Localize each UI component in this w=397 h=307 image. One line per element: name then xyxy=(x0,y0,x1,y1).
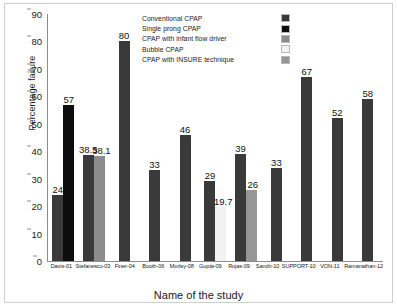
bar-value-label: 26 xyxy=(247,179,258,189)
chart-figure: Percentage failure Name of the study 90 … xyxy=(0,0,397,307)
x-tick-support-10: SUPPORT-10 xyxy=(282,263,316,269)
y-tick-70: 70 xyxy=(31,63,48,74)
bar-ramanathan-12-conventional-cpap[interactable]: 58 xyxy=(362,99,373,261)
bar-value-label: 80 xyxy=(119,31,130,41)
legend-item-infant-flow-driver[interactable]: CPAP with infant flow driver xyxy=(142,34,290,44)
bar-von-11-conventional-cpap[interactable]: 52 xyxy=(332,118,343,261)
y-tick-40: 40 xyxy=(31,146,48,157)
y-tick-mark xyxy=(27,173,31,174)
bar-rojas-09-conventional-cpap[interactable]: 39 xyxy=(235,154,246,261)
legend-label: CPAP with infant flow driver xyxy=(142,35,275,42)
bar-value-label: 57 xyxy=(63,94,74,104)
y-tick-mark xyxy=(27,118,31,119)
bar-value-label: 58 xyxy=(362,89,373,99)
y-tick-20: 20 xyxy=(31,201,48,212)
y-tick-mark xyxy=(27,201,31,202)
bar-group-support-10: 67 xyxy=(292,14,322,261)
y-tick-mark xyxy=(27,91,31,92)
x-tick-von-11: VON-11 xyxy=(316,263,345,269)
y-tick-mark xyxy=(27,36,31,37)
y-tick-mark xyxy=(33,256,37,257)
x-tick-rojas-09: Rojas-09 xyxy=(225,263,254,269)
bar-value-label: 29 xyxy=(205,171,216,181)
y-tick-mark xyxy=(27,228,31,229)
bar-value-label: 46 xyxy=(180,124,191,134)
y-tick-10: 10 xyxy=(31,228,48,239)
legend-swatch-bubble-cpap xyxy=(281,45,290,53)
legend-label: Single prong CPAP xyxy=(142,25,275,32)
bar-group-stefanescu-03: 38.5 38.1 xyxy=(78,14,108,261)
legend-label: Conventional CPAP xyxy=(142,15,275,22)
bar-stefanescu-03-infant-flow-driver[interactable]: 38.1 xyxy=(94,156,105,261)
legend-swatch-insure-technique xyxy=(281,56,290,64)
bar-group-finer-04: 80 xyxy=(109,14,139,261)
x-tick-booth-06: Booth-06 xyxy=(139,263,168,269)
x-tick-davis-01: Davis-01 xyxy=(47,263,76,269)
y-tick-mark xyxy=(27,63,31,64)
bar-value-label: 33 xyxy=(271,158,282,168)
bar-value-label: 38.1 xyxy=(92,146,111,156)
bar-value-label: 52 xyxy=(332,108,343,118)
legend-label: CPAP with INSURE technique xyxy=(142,56,275,63)
legend-item-insure-technique[interactable]: CPAP with INSURE technique xyxy=(142,55,290,65)
bar-davis-01-single-prong-cpap[interactable]: 57 xyxy=(63,105,74,261)
legend-item-single-prong-cpap[interactable]: Single prong CPAP xyxy=(142,23,290,33)
bar-value-label: 67 xyxy=(302,67,313,77)
bar-morley-08-conventional-cpap[interactable]: 46 xyxy=(180,135,191,261)
x-tick-finer-04: Finer-04 xyxy=(110,263,139,269)
legend-swatch-single-prong-cpap xyxy=(281,25,290,33)
bar-rojas-09-insure-technique[interactable]: 26 xyxy=(246,190,257,261)
legend-swatch-conventional-cpap xyxy=(281,14,290,22)
x-tick-stefanescu-03: Stefanescu-03 xyxy=(76,263,111,269)
bar-gupta-09-bubble-cpap[interactable]: 19.7 xyxy=(215,207,226,261)
y-tick-50: 50 xyxy=(31,118,48,129)
x-tick-morley-08: Morley-08 xyxy=(168,263,197,269)
legend-swatch-infant-flow-driver xyxy=(281,35,290,43)
bar-group-von-11: 52 xyxy=(322,14,352,261)
x-tick-sandri-10: Sandri-10 xyxy=(253,263,282,269)
y-tick-60: 60 xyxy=(31,91,48,102)
y-tick-30: 30 xyxy=(31,173,48,184)
x-tick-ramanathan-12: Ramanathan-12 xyxy=(344,263,383,269)
bar-gupta-09-conventional-cpap[interactable]: 29 xyxy=(204,181,215,261)
bar-davis-01-conventional-cpap[interactable]: 24 xyxy=(52,195,63,261)
bar-support-10-conventional-cpap[interactable]: 67 xyxy=(301,77,312,261)
bar-value-label: 19.7 xyxy=(214,196,233,206)
bar-value-label: 39 xyxy=(235,143,246,153)
chart-legend: Conventional CPAP Single prong CPAP CPAP… xyxy=(142,13,290,65)
bar-booth-06-conventional-cpap[interactable]: 33 xyxy=(149,170,160,261)
bar-value-label: 33 xyxy=(149,160,160,170)
bar-stefanescu-03-conventional-cpap[interactable]: 38.5 xyxy=(83,155,94,261)
bar-finer-04-conventional-cpap[interactable]: 80 xyxy=(119,41,130,261)
legend-item-conventional-cpap[interactable]: Conventional CPAP xyxy=(142,13,290,23)
x-tick-labels: Davis-01 Stefanescu-03 Finer-04 Booth-06… xyxy=(47,263,383,269)
y-tick-80: 80 xyxy=(31,36,48,47)
y-tick-90: 90 xyxy=(31,9,48,20)
x-tick-gupta-09: Gupta-09 xyxy=(196,263,225,269)
bar-group-davis-01: 24 57 xyxy=(48,14,78,261)
legend-label: Bubble CPAP xyxy=(142,46,275,53)
y-tick-mark xyxy=(27,9,31,10)
bar-group-ramanathan-12: 58 xyxy=(353,14,383,261)
bar-sandri-10-conventional-cpap[interactable]: 33 xyxy=(271,168,282,261)
y-tick-mark xyxy=(27,146,31,147)
x-axis-label: Name of the study xyxy=(0,289,397,301)
bar-value-label: 24 xyxy=(52,185,63,195)
legend-item-bubble-cpap[interactable]: Bubble CPAP xyxy=(142,44,290,54)
